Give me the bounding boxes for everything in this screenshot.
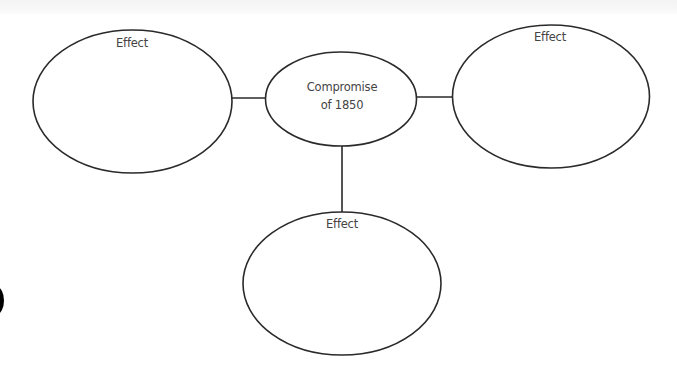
- effect-label-left: Effect: [116, 36, 148, 51]
- effect-node-right[interactable]: [453, 25, 650, 168]
- diagram-canvas: [0, 0, 677, 373]
- center-label-line2: of 1850: [321, 98, 364, 113]
- effect-node-bottom[interactable]: [243, 212, 441, 355]
- effect-label-bottom: Effect: [326, 217, 358, 232]
- effect-node-left[interactable]: [33, 30, 232, 173]
- center-label-line1: Compromise: [307, 80, 378, 95]
- effect-label-right: Effect: [534, 30, 566, 45]
